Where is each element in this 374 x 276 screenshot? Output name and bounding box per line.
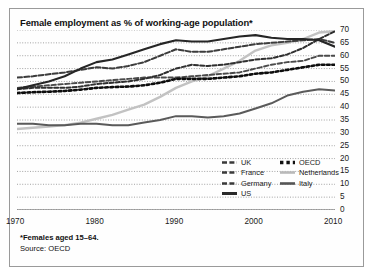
x-tick-label: 1970 <box>6 217 24 226</box>
y-tick-label: 0 <box>340 205 345 214</box>
y-tick-label: 15 <box>340 166 349 175</box>
chart-figure: Female employment as % of working-age po… <box>0 0 374 276</box>
legend-label: Netherlands <box>299 169 339 176</box>
y-tick-label: 50 <box>340 76 349 85</box>
legend-item-netherlands: Netherlands <box>280 168 339 179</box>
legend-item-italy: Italy <box>280 178 339 189</box>
series-line-netherlands <box>17 31 335 129</box>
legend-swatch-oecd <box>280 159 295 166</box>
legend-swatch-germany <box>222 180 237 187</box>
legend-item-france: France <box>222 168 271 179</box>
legend-item-oecd: OECD <box>280 157 339 168</box>
legend-label: Italy <box>299 180 313 187</box>
legend-label: US <box>241 190 251 197</box>
legend-label: UK <box>241 159 251 166</box>
x-tick-label: 1990 <box>165 217 183 226</box>
y-tick-label: 65 <box>340 38 349 47</box>
footnote: *Females aged 15–64. Source: OECD <box>20 233 99 254</box>
y-tick-label: 45 <box>340 89 349 98</box>
y-tick-label: 30 <box>340 128 349 137</box>
legend-swatch-uk <box>222 159 237 166</box>
y-tick-label: 25 <box>340 141 349 150</box>
x-tick-label: 2010 <box>324 217 342 226</box>
y-tick-label: 20 <box>340 154 349 163</box>
y-tick-label: 55 <box>340 64 349 73</box>
footnote-source: Source: OECD <box>20 244 99 255</box>
legend-column-left: UKFranceGermanyUS <box>222 157 271 199</box>
legend-item-uk: UK <box>222 157 271 168</box>
y-tick-label: 70 <box>340 25 349 34</box>
legend-label: France <box>241 169 264 176</box>
y-tick-label: 10 <box>340 179 349 188</box>
legend-swatch-netherlands <box>280 169 295 176</box>
legend-swatch-france <box>222 169 237 176</box>
legend-label: Germany <box>241 180 271 187</box>
legend-item-germany: Germany <box>222 178 271 189</box>
legend-column-right: OECDNetherlandsItaly <box>280 157 339 189</box>
y-tick-label: 5 <box>340 192 345 201</box>
chart-title: Female employment as % of working-age po… <box>20 17 253 28</box>
legend-label: OECD <box>299 159 320 166</box>
legend-swatch-italy <box>280 180 295 187</box>
y-tick-label: 60 <box>340 51 349 60</box>
y-tick-label: 40 <box>340 102 349 111</box>
legend-swatch-us <box>222 190 237 197</box>
x-tick-label: 1980 <box>86 217 104 226</box>
y-tick-label: 35 <box>340 115 349 124</box>
x-tick-label: 2000 <box>245 217 263 226</box>
series-line-uk <box>17 39 335 78</box>
legend-item-us: US <box>222 189 271 200</box>
footnote-note: *Females aged 15–64. <box>20 233 99 244</box>
